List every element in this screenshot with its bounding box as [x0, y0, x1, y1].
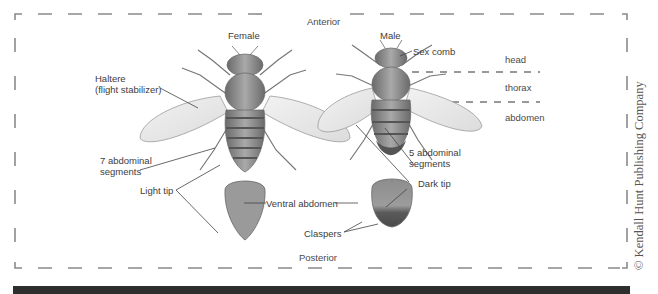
label-7-segments: 7 abdominal	[100, 155, 152, 166]
label-female: Female	[228, 30, 260, 41]
label-ventral-abdomen: Ventral abdomen	[266, 198, 338, 209]
male-ventral-abdomen	[372, 179, 413, 227]
label-posterior: Posterior	[299, 252, 337, 263]
label-haltere: Haltere	[95, 73, 126, 84]
label-anterior: Anterior	[307, 16, 340, 27]
label-5-segments: 5 abdominal	[409, 147, 461, 158]
label-male: Male	[380, 30, 401, 41]
label-head: head	[505, 54, 526, 65]
female-ventral-abdomen	[225, 181, 265, 240]
female-fly	[140, 46, 350, 172]
label-thorax: thorax	[505, 82, 531, 93]
label-light-tip: Light tip	[140, 185, 173, 196]
label-haltere-sub: (flight stabilizer)	[95, 84, 162, 95]
label-abdomen: abdomen	[505, 112, 545, 123]
label-claspers: Claspers	[304, 228, 342, 239]
label-dark-tip: Dark tip	[418, 178, 451, 189]
label-5-segments-sub: segments	[409, 158, 450, 169]
label-sex-comb: Sex comb	[413, 46, 455, 57]
bottom-bar	[13, 286, 630, 294]
label-7-segments-sub: segments	[100, 166, 141, 177]
